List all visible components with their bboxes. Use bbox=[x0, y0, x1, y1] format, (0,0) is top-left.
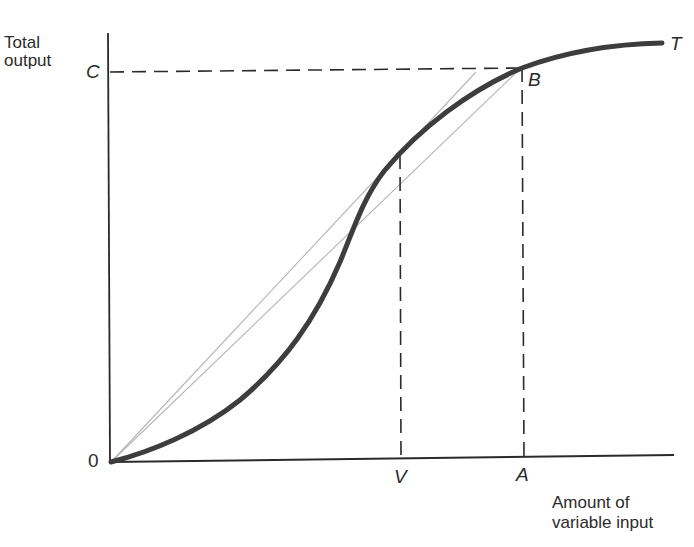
ray-to-b-line bbox=[112, 69, 520, 461]
y-axis bbox=[108, 33, 110, 463]
c-tick-label: C bbox=[86, 62, 100, 81]
a-tick-label: A bbox=[516, 465, 529, 484]
y-axis-title-line2: output bbox=[4, 51, 51, 70]
b-drop-dashed-line bbox=[522, 68, 524, 456]
v-drop-dashed-line bbox=[400, 155, 401, 459]
y-axis-title-line1: Total bbox=[4, 33, 40, 52]
v-tick-label: V bbox=[394, 467, 407, 486]
t-curve-label: T bbox=[670, 34, 682, 53]
total-product-curve bbox=[111, 43, 662, 462]
total-product-chart bbox=[0, 0, 694, 547]
origin-label: 0 bbox=[88, 451, 99, 470]
x-axis bbox=[110, 455, 674, 462]
c-level-dashed-line bbox=[110, 68, 521, 72]
x-axis-title-line2: variable input bbox=[552, 513, 653, 532]
b-point-label: B bbox=[528, 70, 541, 89]
x-axis-title-line1: Amount of bbox=[552, 493, 630, 512]
